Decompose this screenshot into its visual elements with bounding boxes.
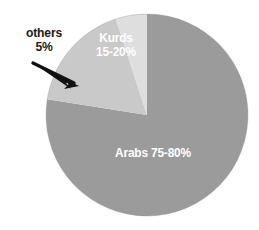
pie-label-others-value: 5% — [12, 40, 77, 54]
pie-label-arabs: Arabs 75-80% — [105, 146, 200, 160]
pie-label-kurds-value: 15-20% — [82, 45, 151, 59]
pie-label-others-name: others — [26, 25, 62, 40]
pie-label-kurds-name: Kurds — [99, 30, 132, 45]
chart-canvas: Kurds 15-20% Arabs 75-80% others 5% — [0, 0, 259, 230]
pie-label-others: others 5% — [12, 26, 77, 54]
pie-label-kurds: Kurds 15-20% — [82, 31, 151, 59]
pie-label-arabs-text: Arabs 75-80% — [115, 145, 191, 160]
